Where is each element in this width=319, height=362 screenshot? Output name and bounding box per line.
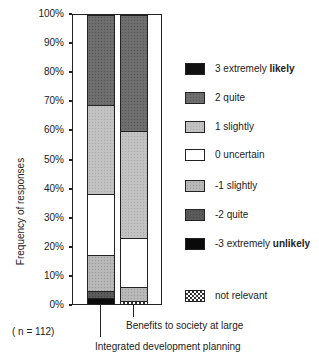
legend-label: -2 quite xyxy=(215,209,248,221)
legend-swatch xyxy=(185,209,205,221)
legend-label: -1 slightly xyxy=(215,180,257,192)
bar-segment xyxy=(120,238,148,287)
y-tick-label: 10% xyxy=(24,270,64,281)
y-tick-label: 60% xyxy=(24,124,64,135)
y-tick-label: 40% xyxy=(24,183,64,194)
category-label-integrated: Integrated development planning xyxy=(95,341,241,352)
legend-swatch xyxy=(185,180,205,192)
bar-segment xyxy=(87,255,115,291)
category-leader-line-1 xyxy=(100,305,101,337)
legend-swatch xyxy=(185,63,205,75)
legend-swatch xyxy=(185,238,205,250)
bar-integrated-development-planning xyxy=(87,15,115,304)
legend-swatch xyxy=(185,149,205,161)
legend-label: 0 uncertain xyxy=(215,149,264,161)
y-tick-label: 0% xyxy=(24,299,64,310)
legend-swatch xyxy=(185,290,205,302)
y-tick-label: 100% xyxy=(24,8,64,19)
legend-label: 2 quite xyxy=(215,92,245,104)
bar-segment xyxy=(87,291,115,298)
bar-segment xyxy=(87,105,115,195)
bar-segment xyxy=(120,287,148,301)
bar-segment xyxy=(87,15,115,105)
bar-benefits-to-society xyxy=(120,15,148,304)
bar-segment xyxy=(87,298,115,304)
bar-segment xyxy=(120,15,148,131)
y-axis-label: Frequency of responses xyxy=(15,152,26,272)
y-tick-label: 30% xyxy=(24,212,64,223)
y-tick-label: 20% xyxy=(24,241,64,252)
sample-size-note: ( n = 112) xyxy=(12,326,54,337)
y-tick-label: 50% xyxy=(24,154,64,165)
legend-swatch xyxy=(185,92,205,104)
bar-segment xyxy=(120,131,148,238)
category-leader-line-2 xyxy=(133,305,134,317)
bar-segment xyxy=(120,301,148,304)
legend-label: not relevant xyxy=(215,290,267,302)
category-label-benefits: Benefits to society at large xyxy=(126,320,243,331)
plot-area xyxy=(72,14,162,305)
legend-swatch xyxy=(185,121,205,133)
legend-label: -3 extremely unlikely xyxy=(215,238,310,250)
legend-label: 3 extremely likely xyxy=(215,63,295,75)
legend-label: 1 slightly xyxy=(215,121,254,133)
bar-segment xyxy=(87,194,115,255)
y-tick-label: 70% xyxy=(24,95,64,106)
y-tick-label: 80% xyxy=(24,66,64,77)
y-tick-label: 90% xyxy=(24,37,64,48)
